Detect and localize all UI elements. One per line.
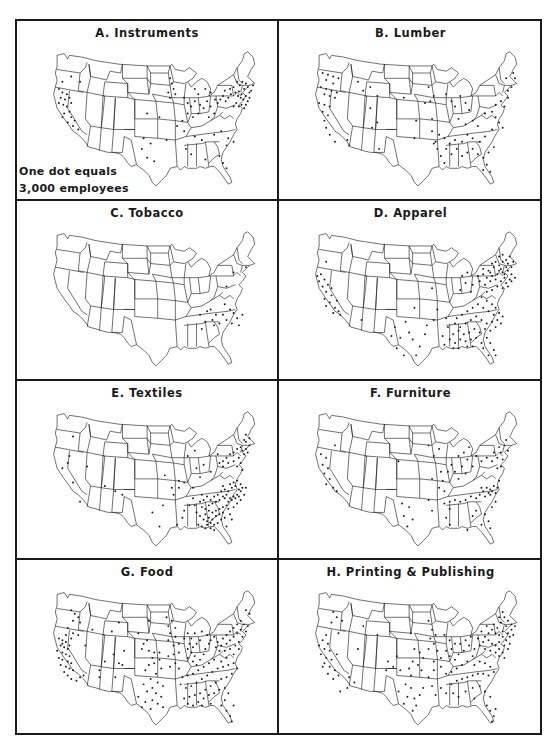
employment-dot xyxy=(461,141,463,143)
employment-dot xyxy=(219,650,221,652)
employment-dot xyxy=(211,519,213,521)
employment-dot xyxy=(336,653,338,655)
employment-dot xyxy=(325,305,327,307)
employment-dot xyxy=(488,310,490,312)
employment-dot xyxy=(210,522,212,524)
employment-dot xyxy=(428,648,430,650)
employment-dot xyxy=(162,504,164,506)
employment-dot xyxy=(433,455,435,457)
us-dot-map xyxy=(285,223,535,373)
employment-dot xyxy=(187,455,189,457)
employment-dot xyxy=(472,675,474,677)
panel-lumber: B. Lumber xyxy=(279,21,542,201)
employment-dot xyxy=(459,289,461,291)
employment-dot xyxy=(325,127,327,129)
employment-dot xyxy=(173,88,175,90)
employment-dot xyxy=(204,159,206,161)
legend: One dot equals 3,000 employees xyxy=(19,163,129,197)
employment-dot xyxy=(201,139,203,141)
employment-dot xyxy=(509,279,511,281)
employment-dot xyxy=(413,648,415,650)
employment-dot xyxy=(486,457,488,459)
employment-dot xyxy=(111,630,113,632)
employment-dot xyxy=(69,645,71,647)
employment-dot xyxy=(419,694,421,696)
employment-dot xyxy=(329,95,331,97)
employment-dot xyxy=(502,636,504,638)
employment-dot xyxy=(465,282,467,284)
employment-dot xyxy=(466,660,468,662)
employment-dot xyxy=(245,609,247,611)
employment-dot xyxy=(227,664,229,666)
employment-dot xyxy=(491,303,493,305)
employment-dot xyxy=(217,522,219,524)
employment-dot xyxy=(194,694,196,696)
employment-dot xyxy=(489,330,491,332)
employment-dot xyxy=(482,169,484,171)
employment-dot xyxy=(477,303,479,305)
employment-dot xyxy=(141,648,143,650)
employment-dot xyxy=(465,499,467,501)
employment-dot xyxy=(199,476,201,478)
employment-dot xyxy=(77,634,79,636)
employment-dot xyxy=(104,485,106,487)
employment-dot xyxy=(233,636,235,638)
employment-dot xyxy=(233,627,235,629)
employment-dot xyxy=(204,648,206,650)
employment-dot xyxy=(143,683,145,685)
employment-dot xyxy=(511,280,513,282)
employment-dot xyxy=(233,506,235,508)
employment-dot xyxy=(242,99,244,101)
employment-dot xyxy=(470,636,472,638)
employment-dot xyxy=(150,678,152,680)
panel-furniture: F. Furniture xyxy=(279,381,542,560)
employment-dot xyxy=(187,113,189,115)
employment-dot xyxy=(429,638,431,640)
employment-dot xyxy=(203,464,205,466)
employment-dot xyxy=(233,141,235,143)
employment-dot xyxy=(210,309,212,311)
employment-dot xyxy=(498,616,500,618)
employment-dot xyxy=(461,678,463,680)
employment-dot xyxy=(410,687,412,689)
employment-dot xyxy=(419,346,421,348)
employment-dot xyxy=(222,666,224,668)
employment-dot xyxy=(514,277,516,279)
employment-dot xyxy=(213,496,215,498)
employment-dot xyxy=(224,650,226,652)
employment-dot xyxy=(502,459,504,461)
employment-dot xyxy=(410,632,412,634)
employment-dot xyxy=(438,487,440,489)
employment-dot xyxy=(498,634,500,636)
employment-dot xyxy=(472,148,474,150)
employment-dot xyxy=(512,261,514,263)
employment-dot xyxy=(204,513,206,515)
panel-printing-publishing: H. Printing & Publishing xyxy=(279,560,542,733)
employment-dot xyxy=(449,501,451,503)
employment-dot xyxy=(429,100,431,102)
employment-dot xyxy=(459,501,461,503)
employment-dot xyxy=(479,660,481,662)
employment-dot xyxy=(146,690,148,692)
employment-dot xyxy=(320,453,322,455)
employment-dot xyxy=(220,660,222,662)
employment-dot xyxy=(511,86,513,88)
employment-dot xyxy=(486,291,488,293)
employment-dot xyxy=(338,675,340,677)
employment-dot xyxy=(477,638,479,640)
employment-dot xyxy=(226,504,228,506)
employment-dot xyxy=(507,90,509,92)
employment-dot xyxy=(203,499,205,501)
employment-dot xyxy=(486,300,488,302)
employment-dot xyxy=(466,134,468,136)
employment-dot xyxy=(245,266,247,268)
employment-dot xyxy=(171,83,173,85)
employment-dot xyxy=(488,492,490,494)
employment-dot xyxy=(348,144,350,146)
employment-dot xyxy=(173,653,175,655)
employment-dot xyxy=(362,90,364,92)
employment-dot xyxy=(500,280,502,282)
employment-dot xyxy=(419,652,421,654)
employment-dot xyxy=(137,696,139,698)
employment-dot xyxy=(169,77,171,79)
